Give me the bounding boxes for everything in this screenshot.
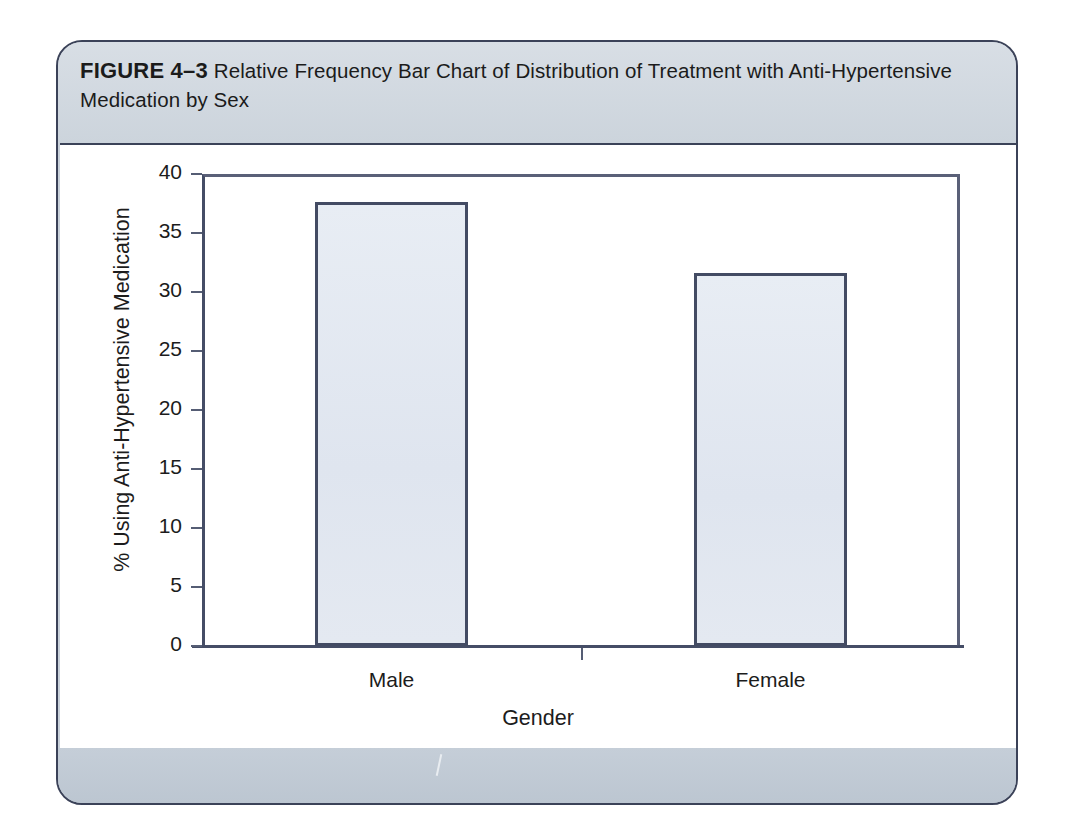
y-axis-tick-label: 25	[138, 337, 182, 361]
y-axis-tick	[191, 468, 202, 470]
bar-female	[694, 273, 847, 646]
y-axis-tick-label: 10	[138, 514, 182, 538]
y-axis-tick-label: 20	[138, 396, 182, 420]
y-axis-tick	[191, 645, 202, 647]
plot-panel: % Using Anti-Hypertensive Medication 051…	[60, 143, 1016, 750]
y-axis-tick	[191, 232, 202, 234]
y-axis-tick	[191, 291, 202, 293]
figure-card: FIGURE 4–3 Relative Frequency Bar Chart …	[56, 40, 1018, 805]
bar-chart: % Using Anti-Hypertensive Medication 051…	[60, 145, 1016, 748]
x-axis-right-extension	[958, 645, 964, 648]
figure-number-label: FIGURE 4–3	[80, 58, 208, 83]
y-axis-tick	[191, 586, 202, 588]
y-axis-tick	[191, 350, 202, 352]
y-axis-tick-label: 5	[138, 573, 182, 597]
y-axis-tick	[191, 527, 202, 529]
bar-fill	[318, 205, 465, 643]
y-axis-tick-label: 30	[138, 278, 182, 302]
figure-footer-band	[58, 748, 1016, 803]
figure-caption-band: FIGURE 4–3 Relative Frequency Bar Chart …	[58, 42, 1016, 143]
x-axis-category-label-male: Male	[292, 668, 492, 692]
y-axis-tick	[191, 409, 202, 411]
figure-caption: FIGURE 4–3 Relative Frequency Bar Chart …	[80, 56, 992, 114]
x-axis-tick	[581, 648, 583, 660]
y-axis-tick-label: 0	[138, 632, 182, 656]
y-axis-tick-label: 35	[138, 219, 182, 243]
y-axis-title: % Using Anti-Hypertensive Medication	[110, 175, 135, 605]
y-axis-tick-label: 40	[138, 160, 182, 184]
y-axis-tick	[191, 173, 202, 175]
x-axis-category-label-female: Female	[671, 668, 871, 692]
bar-male	[315, 202, 468, 646]
figure-caption-text: Relative Frequency Bar Chart of Distribu…	[80, 59, 952, 111]
bar-fill	[697, 276, 844, 643]
y-axis-tick-label: 15	[138, 455, 182, 479]
footer-scan-mark	[436, 754, 443, 776]
x-axis-title: Gender	[60, 706, 1016, 731]
